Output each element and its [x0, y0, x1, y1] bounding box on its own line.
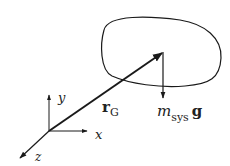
y-axis-label: y: [57, 90, 66, 105]
weight-vector-label: msysg: [157, 102, 203, 124]
x-axis-label: x: [95, 127, 103, 142]
free-body-diagram: y x z rG msysg: [0, 0, 230, 166]
position-vector-rG: [49, 53, 162, 131]
system-body-outline: [102, 17, 221, 86]
coordinate-axes: [20, 95, 87, 158]
position-vector-label: rG: [102, 98, 119, 119]
z-axis-label: z: [34, 150, 42, 164]
